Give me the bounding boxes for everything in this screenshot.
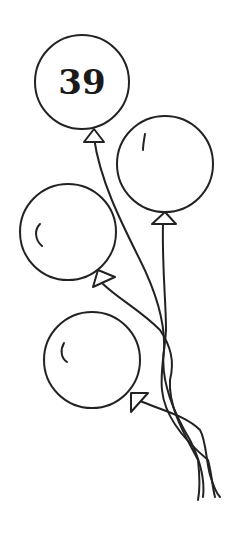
balloon-middle-left <box>20 184 116 287</box>
balloons-illustration: 39 <box>0 0 228 537</box>
balloon-bottom-left <box>44 312 148 412</box>
balloon-top-right <box>117 116 213 224</box>
balloon-number-label: 39 <box>58 62 105 102</box>
balloon-39: 39 <box>35 35 129 142</box>
